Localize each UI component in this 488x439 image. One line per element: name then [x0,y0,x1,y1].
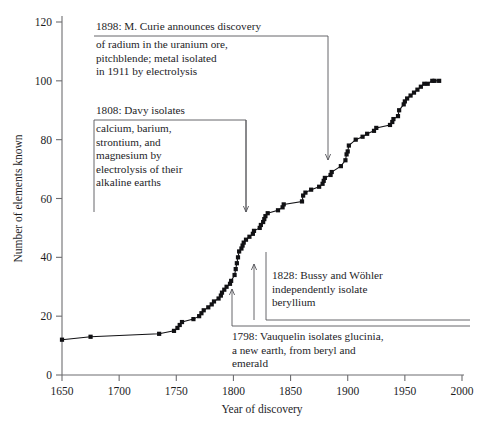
data-point-marker [88,335,92,339]
data-point-marker [266,211,270,215]
y-axis-tick-label: 80 [41,134,53,146]
annotation-curie-body: of radium in the uranium ore, pitchblend… [96,38,228,79]
annotation-davy-heading: 1808: Davy isolates [96,104,185,118]
data-point-marker [365,132,369,136]
data-point-marker [347,143,351,147]
data-point-marker [426,82,430,86]
x-axis-tick-label: 1700 [108,385,131,397]
data-point-marker [252,229,256,233]
data-point-marker [432,79,436,83]
y-axis-title: Number of elements known [12,134,24,262]
x-axis-title: Year of discovery [221,403,302,416]
y-axis-tick-label: 40 [41,251,53,263]
y-axis-tick-label: 120 [35,16,53,28]
x-axis-tick-label: 1900 [336,385,359,397]
data-point-marker [180,320,184,324]
data-point-marker [229,279,233,283]
data-point-marker [396,114,400,118]
data-point-marker [346,149,350,153]
data-point-marker [391,117,395,121]
data-point-marker [330,170,334,174]
annotation-curie-heading: 1898: M. Curie announces discovery [96,20,261,34]
elements-discovery-chart: 0204060801001201650170017501800185019001… [0,0,488,439]
data-point-marker [397,108,401,112]
data-point-marker [276,208,280,212]
data-point-marker [157,332,161,336]
data-point-marker [202,308,206,312]
annotation-vauquelin-body: 1798: Vauquelin isolates glucinia, a new… [232,330,383,371]
data-point-marker [354,138,358,142]
data-point-marker [212,299,216,303]
x-axis-tick-label: 1950 [393,385,416,397]
data-point-marker [339,164,343,168]
y-axis-tick-label: 0 [46,369,52,381]
data-point-marker [303,191,307,195]
data-point-marker [235,261,239,265]
data-point-marker [309,188,313,192]
annotation-davy-body: calcium, barium, strontium, and magnesiu… [96,122,182,190]
y-axis-tick-label: 20 [41,310,53,322]
x-axis-tick-label: 1850 [279,385,302,397]
data-point-marker [323,176,327,180]
data-point-marker [360,135,364,139]
y-axis-tick-label: 100 [35,75,53,87]
data-point-marker [374,126,378,130]
data-point-marker [282,202,286,206]
data-point-marker [232,273,236,277]
data-point-marker [437,79,441,83]
data-point-marker [191,317,195,321]
data-point-marker [60,338,64,342]
data-point-marker [300,199,304,203]
x-axis-tick-label: 1750 [165,385,188,397]
x-axis-tick-label: 1650 [51,385,74,397]
data-point-marker [236,255,240,259]
chart-canvas: 0204060801001201650170017501800185019001… [0,0,488,439]
annotation-bussy-wohler-body: 1828: Bussy and Wöhler independently iso… [272,269,383,310]
y-axis-tick-label: 60 [41,193,53,205]
x-axis-tick-label: 1800 [222,385,245,397]
data-point-marker [234,267,238,271]
data-point-marker [343,158,347,162]
x-axis-tick-label: 2000 [451,385,474,397]
